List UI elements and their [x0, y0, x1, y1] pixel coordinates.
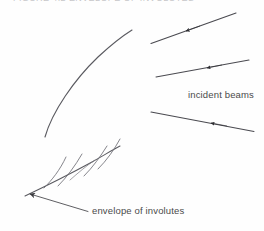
involute-curve-2 — [58, 154, 82, 186]
incident-beam-bottom-line — [151, 112, 254, 132]
incident-beam-middle-arrowhead — [207, 65, 222, 68]
reflecting-arc — [45, 30, 132, 137]
incident-beam-bottom-arrowhead — [211, 123, 227, 126]
involute-curve-5 — [70, 160, 95, 180]
incident-beams-label: incident beams — [188, 89, 254, 100]
caustic-envelope-curve — [25, 146, 120, 196]
envelope-leader-line — [30, 194, 88, 212]
involutes-diagram-svg — [0, 0, 264, 231]
figure-canvas: FIGURE 4.2 ENVELOPE OF INVOLUTES — [0, 0, 264, 231]
envelope-of-involutes-label: envelope of involutes — [92, 205, 184, 216]
incident-beam-top-arrowhead — [186, 26, 200, 31]
incident-beam-middle-line — [156, 60, 249, 77]
involute-curve-1 — [44, 157, 66, 188]
involute-curve-3 — [84, 146, 107, 176]
